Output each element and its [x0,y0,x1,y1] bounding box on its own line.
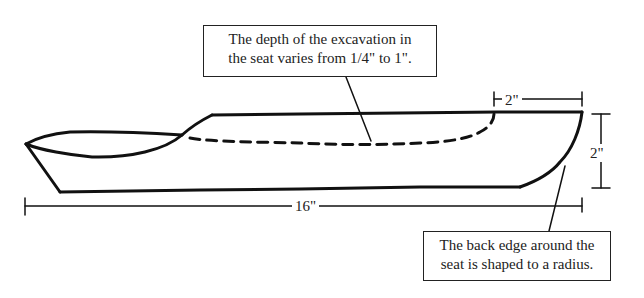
front-lip-lower [26,135,182,157]
back-edge-note-line-2: seat is shaped to a radius. [430,255,604,274]
front-slope [182,115,212,135]
depth-note-callout: The depth of the excavation in the seat … [203,25,437,77]
depth-note-line-2: the seat varies from 1/4" to 1". [210,49,430,68]
back-edge-note-callout: The back edge around the seat is shaped … [423,231,611,281]
height-label: 2" [590,144,604,162]
seat-back-radius [520,112,582,187]
depth-note-line-1: The depth of the excavation in [210,30,430,49]
front-lip-upper [26,132,182,144]
depth-leader-line [346,77,371,141]
back-edge-leader-line [549,166,565,231]
seat-bottom-edge [60,187,520,192]
back-edge-note-line-1: The back edge around the [430,236,604,255]
seat-top-edge [212,112,582,115]
seat-back-width-label: 2" [502,92,522,108]
excavation-dashed-line [190,114,494,145]
overall-length-label: 16" [292,198,319,214]
